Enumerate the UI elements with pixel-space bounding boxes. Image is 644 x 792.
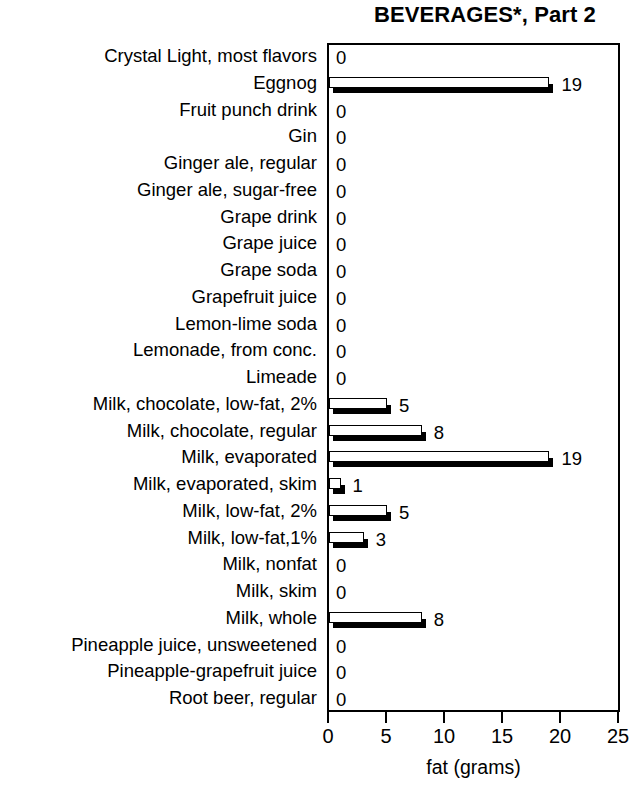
category-label: Pineapple juice, unsweetened <box>71 632 317 659</box>
bars-container: 019000000000005819153008000 <box>329 45 618 710</box>
bar-row: 0 <box>329 45 618 72</box>
bar-row: 0 <box>329 687 618 714</box>
bar-value-label: 0 <box>336 554 346 578</box>
bar-row: 0 <box>329 339 618 366</box>
category-label: Milk, chocolate, regular <box>127 418 317 445</box>
bar-row: 0 <box>329 660 618 687</box>
bar-value-label: 0 <box>336 180 346 204</box>
bar-row: 0 <box>329 232 618 259</box>
bar-value-label: 0 <box>336 340 346 364</box>
x-axis: 0510152025 <box>327 712 620 714</box>
bar-value-label: 3 <box>376 528 386 552</box>
bar-value-label: 19 <box>561 447 582 471</box>
bar-value-label: 0 <box>336 661 346 685</box>
bar-row: 0 <box>329 580 618 607</box>
bar-row: 1 <box>329 473 618 500</box>
x-axis-tick-label: 25 <box>607 725 629 748</box>
bar-row: 5 <box>329 500 618 527</box>
plot-area: 019000000000005819153008000 <box>327 43 620 712</box>
bar-value-label: 0 <box>336 581 346 605</box>
bar-row: 0 <box>329 179 618 206</box>
bar-row: 8 <box>329 420 618 447</box>
bar-value-label: 0 <box>336 260 346 284</box>
bar <box>329 505 387 516</box>
category-label: Milk, evaporated, skim <box>133 471 317 498</box>
bar <box>329 478 341 489</box>
category-label: Limeade <box>246 364 317 391</box>
bar-row: 0 <box>329 553 618 580</box>
bar-row: 0 <box>329 286 618 313</box>
bar-value-label: 0 <box>336 153 346 177</box>
category-label: Grape soda <box>220 257 317 284</box>
bar-value-label: 0 <box>336 233 346 257</box>
bar-row: 0 <box>329 259 618 286</box>
bar-value-label: 8 <box>434 608 444 632</box>
x-axis-tick <box>327 712 329 723</box>
category-label: Root beer, regular <box>169 685 317 712</box>
category-label: Crystal Light, most flavors <box>104 43 317 70</box>
x-axis-tick-label: 20 <box>549 725 571 748</box>
bar-value-label: 5 <box>399 394 409 418</box>
bar-value-label: 8 <box>434 421 444 445</box>
category-label: Milk, evaporated <box>181 444 317 471</box>
bar <box>329 451 549 462</box>
category-axis-labels: Crystal Light, most flavorsEggnogFruit p… <box>0 43 321 712</box>
bar-value-label: 0 <box>336 635 346 659</box>
category-label: Milk, nonfat <box>222 551 317 578</box>
bar-value-label: 1 <box>353 474 363 498</box>
x-axis-tick <box>501 712 503 723</box>
bar-value-label: 0 <box>336 367 346 391</box>
category-label: Milk, low-fat,1% <box>187 525 317 552</box>
category-label: Milk, skim <box>236 578 317 605</box>
category-label: Fruit punch drink <box>179 97 317 124</box>
category-label: Eggnog <box>253 70 317 97</box>
x-axis-tick-label: 5 <box>380 725 391 748</box>
bar <box>329 398 387 409</box>
x-axis-title: fat (grams) <box>327 756 620 779</box>
bar-value-label: 0 <box>336 207 346 231</box>
bar-row: 0 <box>329 206 618 233</box>
category-label: Grape juice <box>222 230 317 257</box>
bar-row: 5 <box>329 393 618 420</box>
x-axis-tick <box>443 712 445 723</box>
bar <box>329 425 422 436</box>
category-label: Pineapple-grapefruit juice <box>107 658 317 685</box>
x-axis-tick <box>617 712 619 723</box>
bar-row: 19 <box>329 72 618 99</box>
bar-row: 0 <box>329 313 618 340</box>
bar-row: 0 <box>329 366 618 393</box>
bar-value-label: 19 <box>561 73 582 97</box>
bar-row: 19 <box>329 446 618 473</box>
category-label: Grape drink <box>220 204 317 231</box>
bar <box>329 612 422 623</box>
category-label: Ginger ale, sugar-free <box>137 177 317 204</box>
x-axis-tick-label: 10 <box>433 725 455 748</box>
bar-value-label: 0 <box>336 126 346 150</box>
category-label: Lemon-lime soda <box>175 311 317 338</box>
bar-row: 0 <box>329 152 618 179</box>
x-axis-tick <box>385 712 387 723</box>
bar <box>329 77 549 88</box>
category-label: Milk, chocolate, low-fat, 2% <box>93 391 317 418</box>
bar-row: 0 <box>329 634 618 661</box>
bar <box>329 532 364 543</box>
bar-row: 3 <box>329 527 618 554</box>
bar-row: 0 <box>329 99 618 126</box>
chart-root: BEVERAGES*, Part 2 Crystal Light, most f… <box>0 0 644 792</box>
x-axis-tick <box>559 712 561 723</box>
category-label: Lemonade, from conc. <box>133 337 317 364</box>
x-axis-tick-label: 15 <box>491 725 513 748</box>
bar-value-label: 0 <box>336 46 346 70</box>
category-label: Ginger ale, regular <box>164 150 317 177</box>
x-axis-tick-label: 0 <box>322 725 333 748</box>
bar-row: 8 <box>329 607 618 634</box>
bar-value-label: 5 <box>399 501 409 525</box>
bar-value-label: 0 <box>336 100 346 124</box>
category-label: Gin <box>288 123 317 150</box>
bar-value-label: 0 <box>336 314 346 338</box>
bar-value-label: 0 <box>336 688 346 712</box>
chart-title: BEVERAGES*, Part 2 <box>330 2 640 28</box>
bar-row: 0 <box>329 125 618 152</box>
category-label: Milk, low-fat, 2% <box>182 498 317 525</box>
category-label: Milk, whole <box>226 605 318 632</box>
